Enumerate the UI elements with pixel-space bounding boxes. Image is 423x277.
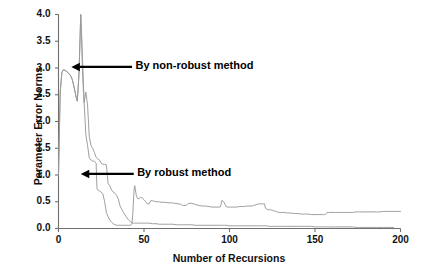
- annotation-label-2: By robust method: [137, 166, 231, 178]
- y-tick-label: 0.5: [21, 195, 51, 206]
- y-tick-label: 3.0: [21, 62, 51, 73]
- x-tick-label: 50: [124, 234, 164, 245]
- x-axis-title-text: Number of Recursions: [58, 252, 400, 264]
- y-tick-label: 1.5: [21, 142, 51, 153]
- y-tick-label: 1.0: [21, 169, 51, 180]
- x-tick-label: 200: [381, 234, 421, 245]
- annotation-group: [71, 63, 133, 178]
- y-tick-label: 2.5: [21, 88, 51, 99]
- y-tick-label: 0.0: [21, 222, 51, 233]
- axes-group: [55, 15, 401, 233]
- x-tick-label: 100: [210, 234, 250, 245]
- annotation-arrow-head-2: [81, 170, 90, 178]
- x-tick-label: 150: [295, 234, 335, 245]
- annotation-arrow-head-1: [71, 63, 80, 71]
- series-line-1: [59, 15, 394, 228]
- chart-figure: Parameter Error Norms Number of Recursio…: [0, 0, 423, 277]
- series-line-2: [59, 15, 401, 226]
- y-tick-label: 3.5: [21, 35, 51, 46]
- y-tick-label: 2.0: [21, 115, 51, 126]
- y-axis-title-text: Parameter Error Norms: [32, 67, 44, 185]
- data-series-group: [59, 15, 401, 228]
- x-tick-label: 0: [39, 234, 79, 245]
- y-tick-label: 4.0: [21, 8, 51, 19]
- annotation-label-1: By non-robust method: [135, 59, 253, 71]
